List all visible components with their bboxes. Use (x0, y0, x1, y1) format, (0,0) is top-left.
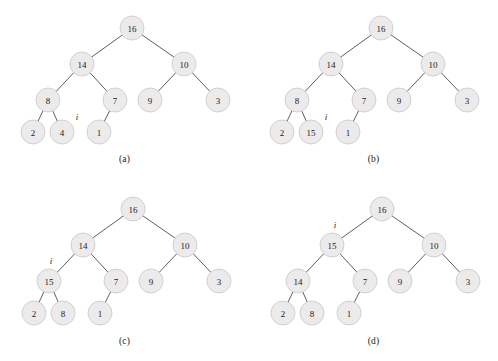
tree-node-leaf-1: 2 (22, 301, 46, 325)
tree-node-right: 10 (172, 52, 196, 76)
panel-caption-b: (b) (249, 154, 498, 164)
node-label: 2 (280, 128, 285, 138)
tree-edge (158, 72, 176, 91)
node-label: 2 (281, 309, 286, 319)
tree-node-leaf-2: 8 (51, 301, 75, 325)
index-marker-i: i (334, 220, 337, 230)
node-label: 1 (346, 128, 351, 138)
tree-node-left: 14 (71, 233, 95, 257)
node-label: 7 (113, 96, 118, 106)
tree-edge (305, 72, 323, 91)
tree-node-left-left: 15 (37, 269, 61, 293)
tree-node-right: 10 (421, 52, 445, 76)
tree-edge (91, 253, 108, 272)
node-label: 2 (31, 128, 36, 138)
node-label: 8 (61, 309, 66, 319)
tree-edge (340, 35, 371, 58)
node-label: 16 (377, 24, 387, 34)
tree-edge (287, 110, 292, 121)
tree-node-leaf-2: 8 (300, 301, 324, 325)
tree-node-left: 14 (70, 52, 94, 76)
node-label: 10 (430, 241, 440, 251)
tree-node-leaf-2: 4 (50, 120, 74, 144)
tree-edge (56, 72, 74, 91)
tree-edge (90, 72, 107, 91)
index-marker-i: i (76, 112, 79, 122)
tree-edge (341, 216, 372, 239)
tree-panel-c: 16141015793281i(c) (0, 181, 249, 361)
node-label: 9 (398, 277, 403, 287)
panel-caption-d: (d) (249, 336, 498, 346)
node-label: 16 (129, 205, 139, 215)
node-label: 10 (180, 60, 190, 70)
node-label: 3 (465, 96, 470, 106)
node-label: 1 (347, 309, 352, 319)
tree-edge (390, 35, 423, 58)
node-label: 8 (310, 309, 315, 319)
node-label: 2 (32, 309, 37, 319)
tree-edge (407, 72, 425, 91)
tree-node-root: 16 (370, 197, 394, 221)
node-label: 15 (307, 128, 317, 138)
node-label: 1 (98, 309, 103, 319)
tree-edge (91, 35, 122, 58)
tree-edge (354, 291, 360, 302)
tree-edge (105, 291, 111, 302)
tree-edge (53, 111, 58, 122)
tree-graphic-d: 16151014793281i (249, 181, 498, 361)
index-marker-i: i (50, 256, 53, 266)
node-label: 4 (60, 128, 65, 138)
panel-caption-a: (a) (0, 154, 249, 164)
node-label: 15 (328, 241, 338, 251)
node-label: 3 (217, 277, 222, 287)
tree-edge (353, 110, 359, 121)
tree-edge (159, 253, 177, 272)
tree-edge (92, 216, 123, 239)
tree-edge (141, 35, 174, 58)
tree-edge (306, 253, 324, 272)
node-label: 10 (429, 60, 439, 70)
tree-node-right: 10 (422, 233, 446, 257)
tree-node-leaf-3: 1 (88, 301, 112, 325)
tree-panel-a: 1614108793241i(a) (0, 0, 249, 181)
tree-edge (57, 253, 75, 272)
tree-node-left-right: 7 (104, 269, 128, 293)
tree-node-left-left: 8 (285, 88, 309, 112)
tree-panel-d: 16151014793281i(d) (249, 181, 498, 361)
tree-edge (39, 291, 44, 302)
node-label: 16 (128, 24, 138, 34)
node-label: 14 (78, 60, 88, 70)
tree-edge (442, 253, 460, 272)
tree-node-right-left: 9 (138, 88, 162, 112)
tree-edge (38, 110, 43, 121)
node-label: 14 (327, 60, 337, 70)
node-label: 14 (294, 277, 304, 287)
tree-node-left: 14 (319, 52, 343, 76)
tree-node-left-left: 8 (36, 88, 60, 112)
tree-node-leaf-1: 2 (271, 301, 295, 325)
node-label: 15 (45, 277, 55, 287)
tree-node-leaf-3: 1 (337, 301, 361, 325)
node-label: 3 (466, 277, 471, 287)
node-label: 9 (148, 96, 153, 106)
tree-node-leaf-1: 2 (21, 120, 45, 144)
tree-edge (302, 111, 307, 122)
tree-node-right-right: 3 (206, 88, 230, 112)
tree-edge (142, 216, 175, 239)
tree-edge (193, 253, 211, 272)
node-label: 7 (114, 277, 119, 287)
tree-node-right-left: 9 (387, 88, 411, 112)
tree-node-left: 15 (320, 233, 344, 257)
tree-node-leaf-2: 15 (299, 120, 323, 144)
tree-edge (340, 253, 357, 272)
tree-edge (288, 291, 293, 302)
tree-node-right-left: 9 (388, 269, 412, 293)
node-label: 8 (46, 96, 51, 106)
tree-panel-b: 16141087932151i(b) (249, 0, 498, 181)
node-label: 9 (397, 96, 402, 106)
panel-caption-c: (c) (0, 336, 249, 346)
tree-node-root: 16 (120, 16, 144, 40)
tree-node-leaf-1: 2 (270, 120, 294, 144)
tree-node-root: 16 (369, 16, 393, 40)
node-label: 7 (362, 96, 367, 106)
